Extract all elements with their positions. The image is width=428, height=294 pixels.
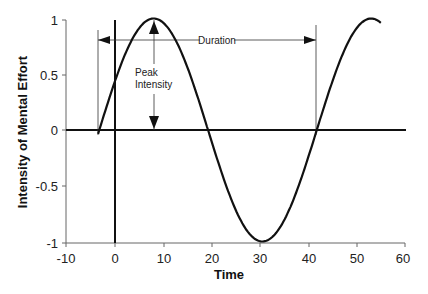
x-tick-label: 40: [302, 251, 316, 266]
peak-label-line2: Intensity: [135, 79, 172, 90]
duration-label: Duration: [198, 35, 236, 46]
x-axis-title: Time: [214, 267, 244, 282]
y-tick-label: 0.5: [40, 68, 58, 83]
peak-arrowhead-down-icon: [149, 116, 159, 129]
x-tick-label: -10: [57, 251, 76, 266]
y-tick-label: -1: [46, 236, 58, 251]
y-tick-label: -0.5: [36, 179, 58, 194]
x-tick-label: 10: [157, 251, 171, 266]
duration-arrowhead-right-icon: [304, 36, 316, 44]
x-tick-label: 60: [396, 251, 410, 266]
x-tick-label: 30: [253, 251, 267, 266]
x-tick-labels: -10 0 10 20 30 40 50 60: [57, 251, 411, 266]
peak-label-line1: Peak: [135, 67, 159, 78]
x-tick-label: 50: [350, 251, 364, 266]
y-tick-label: 0: [51, 123, 58, 138]
y-tick-labels: 1 0.5 0 -0.5 -1: [36, 13, 58, 251]
x-tick-label: 20: [205, 251, 219, 266]
y-axis-title: Intensity of Mental Effort: [15, 55, 30, 208]
x-ticks: [66, 243, 405, 247]
peak-arrowhead-up-icon: [149, 21, 159, 34]
chart: 1 0.5 0 -0.5 -1 -10 0 10 20 30 40 50 60 …: [0, 0, 428, 294]
x-tick-label: 0: [111, 251, 118, 266]
y-ticks: [62, 20, 66, 243]
y-tick-label: 1: [51, 13, 58, 28]
duration-arrowhead-left-icon: [98, 36, 110, 44]
